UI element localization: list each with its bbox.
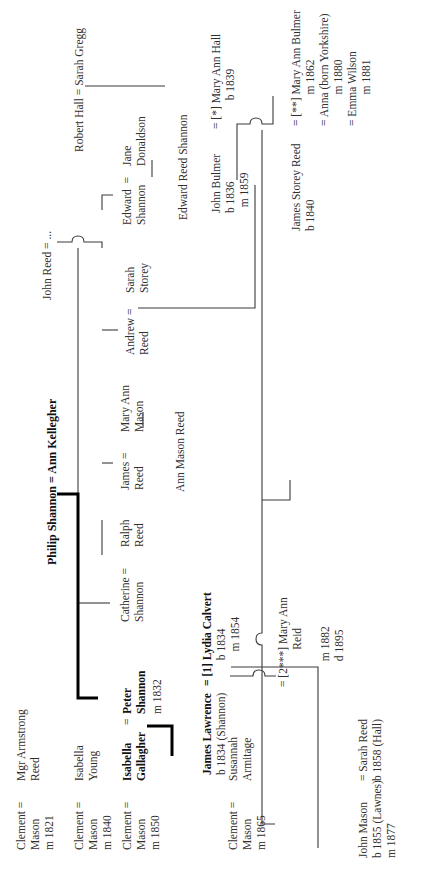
jane-donaldson: Jane Donaldson	[120, 116, 148, 166]
catherine-shannon: Catherine = Shannon	[118, 568, 146, 622]
reid-upper-line	[262, 480, 290, 500]
lydia-calvert: = [1] Lydia Calvert	[200, 592, 214, 686]
clement-mason-1850: Clement = Mason m 1850	[120, 802, 162, 850]
andrew-reed: Andrew = Reed	[123, 309, 151, 355]
mary-ann-hall: = [*] Mary Ann Hall b 1839	[209, 34, 237, 129]
john-mason: John Mason b 1855 (Lawnes) m 1877	[356, 780, 398, 858]
philip-shannon-ann-kellegher: Philip Shannon = Ann Kellegher	[45, 399, 59, 565]
james-lawrence: James Lawrence	[200, 693, 214, 775]
peter-equals: =	[120, 719, 134, 726]
edward-shannon: Edward = Shannon	[120, 177, 148, 225]
peter-marriage-date: m 1832	[150, 679, 164, 714]
ralph-reed: Ralph Reed	[118, 520, 146, 547]
bold-peter-to-james-lawrence	[147, 726, 172, 756]
robert-hall-sarah-gregg: Robert Hall = Sarah Gregg	[72, 28, 86, 152]
james-reed: James = Reed	[118, 453, 146, 490]
lydia-calvert-dates: b 1834 m 1854	[214, 617, 242, 686]
mary-ann-reid: = [2***] Mary Ann Reid m 1882 d 1895	[276, 597, 346, 687]
susannah-armitage: Susannah Armitage	[226, 737, 254, 781]
isabella-young: Isabella Young	[72, 745, 100, 781]
mary-ann-mason: Mary Ann Mason	[118, 385, 146, 432]
mgr-armstrong-reed: Mgr Armstrong Reed	[14, 709, 42, 781]
bulmer-descendant-line	[256, 130, 275, 824]
ann-mason-reed: Ann Mason Reed	[173, 412, 187, 493]
clement-mason-1865: Clement = Mason m 1865	[226, 802, 268, 850]
edward-branch	[102, 195, 113, 210]
john-reed-hop-line	[57, 236, 102, 248]
sarah-reed: = Sarah Reed b 1858 (Hall)	[356, 719, 384, 781]
john-bulmer: John Bulmer b 1836 m 1859	[209, 154, 251, 213]
edward-reed-shannon: Edward Reed Shannon	[176, 115, 190, 220]
john-reed: John Reed = ...	[40, 231, 54, 300]
isabella-gallagher: Isabella Gallagher	[120, 732, 148, 781]
clement-mason-1840: Clement = Mason m 1840	[72, 802, 114, 850]
clement-mason-1821: Clement = Mason m 1821	[14, 802, 56, 850]
james-storey-reed: James Storey Reed b 1840	[289, 143, 317, 231]
sarah-storey: Sarah Storey	[123, 263, 151, 293]
james-storey-spouses: = [**] Mary Ann Bulmer m 1862 = Anna (bo…	[289, 10, 373, 126]
bold-philip-to-peter	[57, 494, 98, 698]
peter-shannon: Peter Shannon	[120, 671, 148, 714]
